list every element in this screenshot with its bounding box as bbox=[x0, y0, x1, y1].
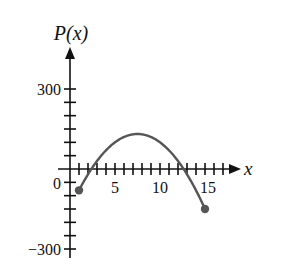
endpoint-dot bbox=[201, 205, 209, 213]
y-tick-label-300: 300 bbox=[37, 81, 61, 98]
x-tick-label-10: 10 bbox=[152, 179, 168, 196]
y-axis-arrow-icon bbox=[65, 47, 75, 59]
endpoint-dot bbox=[75, 186, 83, 194]
x-axis-arrow-icon bbox=[229, 164, 241, 174]
y-tick-label-0: 0 bbox=[53, 175, 61, 192]
y-axis bbox=[64, 47, 76, 258]
y-tick-label-neg300: −300 bbox=[28, 241, 61, 258]
x-tick-label-15: 15 bbox=[200, 179, 216, 196]
x-axis-label: x bbox=[243, 158, 253, 179]
function-graph: P(x) x 300 0 −300 5 10 15 bbox=[0, 0, 281, 278]
x-axis bbox=[58, 163, 241, 175]
curve-endpoints bbox=[75, 186, 209, 213]
y-axis-label: P(x) bbox=[53, 22, 89, 45]
x-tick-label-5: 5 bbox=[111, 179, 119, 196]
